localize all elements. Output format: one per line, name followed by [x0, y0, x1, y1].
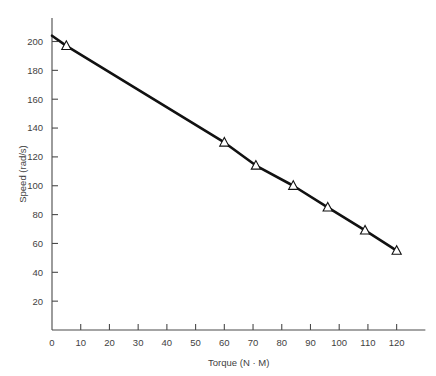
y-axis-tick-label: 20 — [32, 296, 43, 307]
x-axis-tick-label: 60 — [219, 337, 230, 348]
y-axis-tick-label: 120 — [27, 151, 43, 162]
x-axis-title: Torque (N · M) — [208, 357, 269, 368]
y-axis-tick-label: 60 — [32, 238, 43, 249]
x-axis-tick-label: 120 — [389, 337, 405, 348]
y-axis-tick-label: 100 — [27, 180, 43, 191]
y-axis-tick-label: 140 — [27, 122, 43, 133]
x-axis-tick-label: 30 — [133, 337, 144, 348]
y-axis-tick-label: 80 — [32, 209, 43, 220]
chart-plot-area: 2040608010012014016018020001020304050607… — [0, 0, 436, 376]
x-axis-tick-label: 90 — [305, 337, 316, 348]
x-axis-tick-label: 50 — [190, 337, 201, 348]
y-axis-title: Speed (rad/s) — [17, 145, 28, 203]
x-axis-tick-label: 70 — [248, 337, 259, 348]
y-axis-tick-label: 200 — [27, 36, 43, 47]
x-axis-tick-label: 20 — [104, 337, 115, 348]
y-axis-tick-label: 160 — [27, 94, 43, 105]
y-axis-tick-label: 40 — [32, 267, 43, 278]
x-axis-tick-label: 110 — [360, 337, 375, 348]
x-axis-tick-label: 0 — [49, 337, 54, 348]
y-axis-tick-label: 180 — [27, 65, 43, 76]
x-axis-tick-label: 100 — [331, 337, 347, 348]
speed-torque-chart: 2040608010012014016018020001020304050607… — [0, 0, 436, 376]
x-axis-tick-label: 10 — [75, 337, 86, 348]
x-axis-tick-label: 80 — [276, 337, 287, 348]
x-axis-tick-label: 40 — [162, 337, 173, 348]
